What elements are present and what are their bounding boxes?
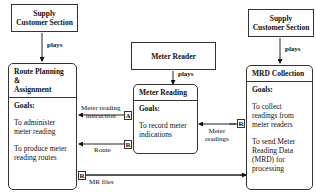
goal-item: To send Meter Reading Data (MRD) for pro…: [252, 137, 307, 173]
role-title: Route Planning & Assignment: [9, 64, 76, 98]
role-goals: Goals: To record meter indications: [134, 101, 197, 150]
goal-item: To record meter indications: [139, 121, 192, 139]
actor-label: Supply: [253, 14, 310, 23]
plays-label: plays: [178, 70, 194, 78]
actor-label: Customer Section: [16, 18, 73, 27]
goals-heading: Goals:: [139, 104, 192, 113]
flow-label-route: Route: [94, 146, 111, 154]
actor-meter-reader: Meter Reader: [131, 42, 216, 70]
plays-label: plays: [47, 41, 63, 49]
actor-supply-customer-section-right: Supply Customer Section: [248, 9, 314, 37]
plays-label: plays: [285, 45, 301, 53]
goal-item: To administer meter reading: [14, 118, 71, 136]
actor-label: Customer Section: [253, 23, 310, 32]
role-goals: Goals: To administer meter reading To pr…: [9, 98, 76, 173]
flow-tag-r: R: [124, 140, 132, 149]
flow-tag-r: R: [237, 119, 245, 128]
role-route-planning-assignment: Route Planning & Assignment Goals: To ad…: [8, 63, 77, 190]
flow-label-mr-files: MR files: [89, 178, 114, 186]
role-title: Meter Reading: [134, 85, 197, 101]
goals-heading: Goals:: [14, 101, 71, 110]
flow-label-meter-readings: Meter readings: [205, 127, 229, 143]
role-meter-reading: Meter Reading Goals: To record meter ind…: [133, 84, 198, 154]
goals-heading: Goals:: [252, 85, 307, 94]
flow-tag-r: R: [78, 171, 86, 180]
actor-label: Meter Reader: [151, 52, 196, 61]
role-mrd-collection: MRD Collection Goals: To collect reading…: [246, 65, 313, 190]
goal-item: To collect readings from meter readers: [252, 102, 307, 129]
role-title: MRD Collection: [247, 66, 312, 82]
actor-supply-customer-section-left: Supply Customer Section: [11, 4, 78, 32]
flow-tag-a: A: [124, 111, 132, 120]
goal-item: To produce meter reading routes: [14, 144, 71, 162]
flow-label-meter-reading-instruction: Meter reading instruction: [81, 104, 120, 120]
role-goals: Goals: To collect readings from meter re…: [247, 82, 312, 184]
actor-label: Supply: [16, 9, 73, 18]
